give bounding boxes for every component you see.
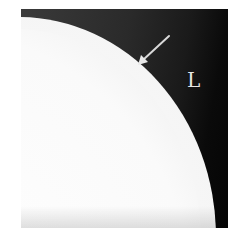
radiograph-image: L <box>21 9 228 228</box>
arrow-icon <box>21 9 228 228</box>
side-marker-label: L <box>187 70 200 90</box>
